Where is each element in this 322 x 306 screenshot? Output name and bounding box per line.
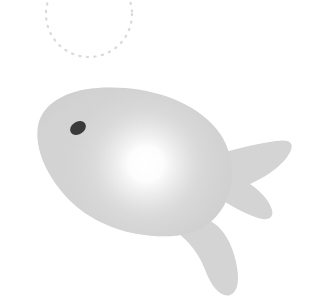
body-highlight [68, 86, 224, 242]
fish-body [28, 80, 244, 246]
dotted-circle-icon [46, 0, 132, 57]
fish-illustration [0, 0, 322, 306]
illustration-canvas: Stylized fish illustration [0, 0, 322, 306]
